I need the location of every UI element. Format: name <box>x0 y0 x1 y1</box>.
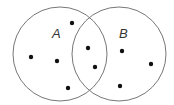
point-dot <box>70 21 74 25</box>
set-b-label: B <box>119 26 128 41</box>
point-dot <box>55 59 59 63</box>
set-a-label: A <box>51 26 61 41</box>
point-dot <box>86 46 90 50</box>
point-dot <box>93 65 97 69</box>
venn-diagram: A B <box>0 0 174 105</box>
point-dot <box>118 84 122 88</box>
point-dot <box>120 49 124 53</box>
element-points <box>29 21 153 90</box>
set-a-circle <box>13 7 107 101</box>
point-dot <box>149 62 153 66</box>
point-dot <box>29 55 33 59</box>
point-dot <box>66 86 70 90</box>
